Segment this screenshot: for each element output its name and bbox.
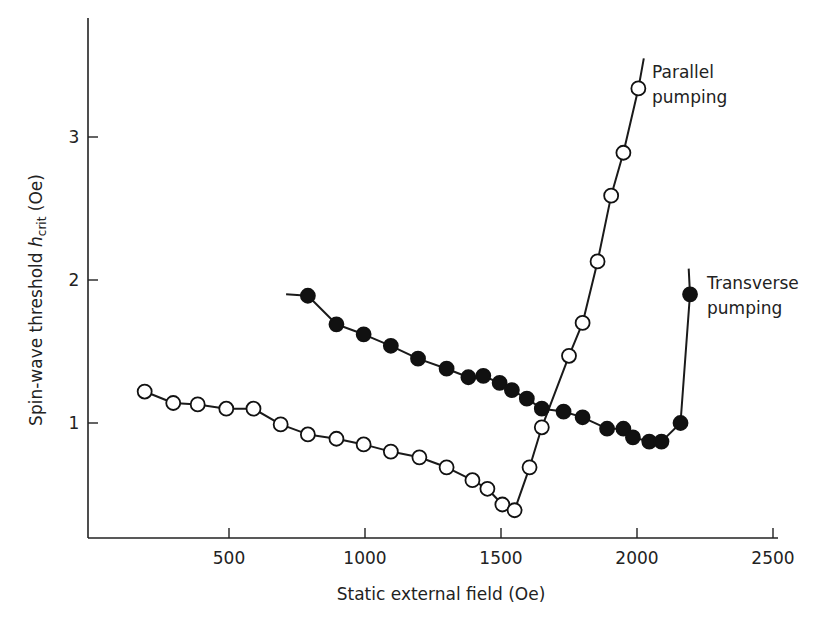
open-marker [138, 385, 152, 399]
filled-marker [384, 339, 398, 353]
x-tick-label: 1000 [343, 548, 386, 568]
open-marker [591, 254, 605, 268]
filled-marker [461, 370, 475, 384]
filled-marker [411, 352, 425, 366]
open-marker [480, 482, 494, 496]
filled-marker [576, 410, 590, 424]
open-marker [246, 402, 260, 416]
open-marker [440, 460, 454, 474]
series-labels: ParallelpumpingTransversepumping [652, 62, 799, 318]
open-marker [535, 420, 549, 434]
x-axis-label: Static external field (Oe) [337, 584, 546, 604]
filled-marker [557, 405, 571, 419]
chart: 5001000150020002500123 ParallelpumpingTr… [0, 0, 825, 627]
filled-marker [440, 362, 454, 376]
filled-marker [505, 383, 519, 397]
filled-marker [626, 430, 640, 444]
filled-marker [683, 287, 697, 301]
filled-marker [674, 416, 688, 430]
open-marker [357, 437, 371, 451]
x-tick-label: 2500 [751, 548, 794, 568]
open-marker [166, 396, 180, 410]
open-marker [604, 189, 618, 203]
y-axis-label: Spin-wave threshold hcrit (Oe) [26, 174, 49, 426]
open-marker [508, 503, 522, 517]
x-tick-label: 500 [213, 548, 245, 568]
open-marker [412, 450, 426, 464]
x-tick-label: 1500 [479, 548, 522, 568]
open-marker [562, 349, 576, 363]
curve-transverse [286, 269, 690, 442]
filled-marker [654, 435, 668, 449]
filled-marker [535, 402, 549, 416]
open-marker [274, 417, 288, 431]
open-marker [631, 81, 645, 95]
parallel-pumping-label: Parallel [652, 62, 714, 82]
y-tick-label: 1 [69, 413, 80, 433]
filled-marker [476, 369, 490, 383]
open-marker [384, 445, 398, 459]
filled-marker [357, 327, 371, 341]
data-points [138, 81, 697, 517]
open-marker [465, 473, 479, 487]
open-marker [219, 402, 233, 416]
transverse-pumping-label: Transverse [706, 273, 799, 293]
parallel-pumping-label: pumping [652, 87, 727, 107]
open-marker [523, 460, 537, 474]
x-tick-label: 2000 [615, 548, 658, 568]
fit-curves [145, 58, 690, 510]
y-tick-label: 3 [69, 127, 80, 147]
filled-marker [301, 289, 315, 303]
filled-marker [520, 392, 534, 406]
curve-parallel [145, 58, 644, 510]
filled-marker [600, 422, 614, 436]
filled-marker [329, 317, 343, 331]
y-tick-label: 2 [69, 270, 80, 290]
open-marker [301, 427, 315, 441]
open-marker [576, 316, 590, 330]
open-marker [616, 146, 630, 160]
transverse-pumping-label: pumping [707, 298, 782, 318]
open-marker [191, 397, 205, 411]
open-marker [329, 432, 343, 446]
